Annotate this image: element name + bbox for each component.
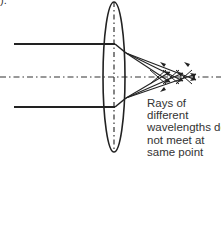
arrow-icon <box>160 87 166 92</box>
caption-line: Rays of <box>147 97 221 109</box>
caption-line: wavelengths do <box>147 121 221 133</box>
aberration-caption: Rays of different wavelengths do not mee… <box>147 97 221 158</box>
arrow-icon <box>177 72 183 77</box>
caption-line: same point <box>147 146 221 158</box>
caption-line: not meet at <box>147 134 221 146</box>
caption-line: different <box>147 109 221 121</box>
arrow-icon <box>184 62 190 67</box>
arrow-icon <box>177 77 183 82</box>
